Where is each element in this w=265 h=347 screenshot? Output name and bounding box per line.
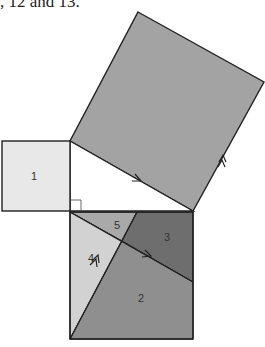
- label-3: 3: [164, 231, 170, 243]
- label-4: 4: [88, 252, 94, 264]
- label-2: 2: [138, 292, 144, 304]
- label-1: 1: [31, 170, 37, 182]
- label-5: 5: [114, 219, 120, 231]
- pythagoras-diagram: 1 2 3 4 5: [0, 0, 265, 347]
